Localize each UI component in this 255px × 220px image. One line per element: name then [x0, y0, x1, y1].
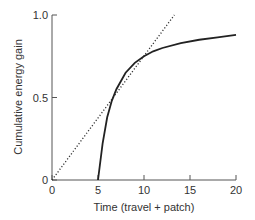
- y-tick-label: 1.0: [33, 9, 48, 21]
- y-tick-label: 0: [42, 174, 48, 186]
- y-tick-label: 0.5: [33, 92, 48, 104]
- y-axis-label: Cumulative energy gain: [12, 39, 24, 155]
- x-tick-label: 15: [184, 184, 196, 196]
- chart: 00.51.0 05101520 Time (travel + patch) C…: [0, 0, 255, 220]
- x-ticks: 05101520: [49, 175, 242, 196]
- x-tick-label: 20: [230, 184, 242, 196]
- x-tick-label: 0: [49, 184, 55, 196]
- gain-curve: [98, 35, 236, 180]
- plot-area: 00.51.0 05101520 Time (travel + patch) C…: [12, 9, 242, 213]
- x-tick-label: 10: [138, 184, 150, 196]
- y-ticks: 00.51.0: [33, 9, 57, 186]
- x-axis-label: Time (travel + patch): [94, 201, 195, 213]
- x-tick-label: 5: [95, 184, 101, 196]
